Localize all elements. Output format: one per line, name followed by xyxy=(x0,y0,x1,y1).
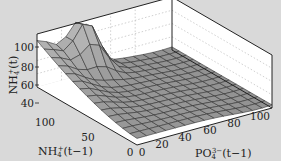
z-axis-label: NH4+(t) xyxy=(7,56,21,95)
x-tick-label: 40 xyxy=(178,131,191,143)
y-tick-label: 100 xyxy=(35,116,55,128)
x-tick-label: 20 xyxy=(155,138,168,150)
axis-labels-layer: 100806040 100500 020406080100 NH4+(t) NH… xyxy=(0,0,281,161)
x-tick-label: 100 xyxy=(250,110,270,122)
y-tick-label: 0 xyxy=(127,146,134,158)
z-tick-label: 80 xyxy=(21,61,34,73)
surface-plot: 100806040 100500 020406080100 NH4+(t) NH… xyxy=(0,0,281,161)
x-axis-label: PO43−(t−1) xyxy=(195,147,251,161)
y-axis-label: NH4+(t−1) xyxy=(38,145,93,159)
y-tick-label: 50 xyxy=(81,131,94,143)
x-tick-label: 0 xyxy=(139,146,146,158)
z-tick-label: 40 xyxy=(21,97,34,109)
z-tick-label: 60 xyxy=(21,79,34,91)
x-tick-label: 80 xyxy=(227,117,240,129)
x-tick-label: 60 xyxy=(203,124,216,136)
z-tick-label: 100 xyxy=(14,41,34,53)
